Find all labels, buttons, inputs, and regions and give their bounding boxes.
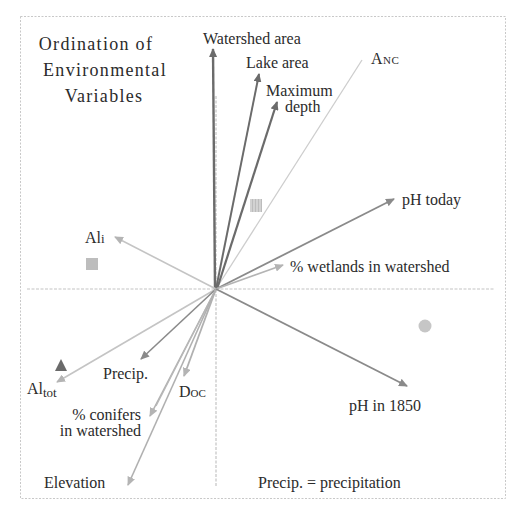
sample-markers [55, 199, 432, 371]
label-ph-1850: pH in 1850 [349, 397, 421, 415]
striped-square-marker [250, 199, 262, 212]
label-altot-sub: tot [43, 385, 57, 400]
vector-precip [141, 289, 216, 359]
title-line-1: Ordination of [39, 34, 153, 54]
label-conifers-2: in watershed [60, 422, 141, 439]
label-anc: Anc [371, 50, 399, 67]
vector-doc [184, 289, 216, 376]
label-ali: Ali [85, 229, 105, 246]
ordination-diagram: Ordination of Environmental Variables W [0, 0, 512, 515]
label-precip: Precip. [103, 365, 148, 383]
label-wetlands: % wetlands in watershed [290, 258, 450, 275]
label-ph-today: pH today [402, 191, 461, 209]
label-maximum-depth-2: depth [285, 98, 321, 116]
svg-text:Variables: Variables [65, 86, 144, 106]
triangle-marker [55, 359, 67, 371]
footnote-precipitation: Precip. = precipitation [258, 474, 401, 492]
label-watershed-area: Watershed area [203, 30, 301, 47]
label-doc: Doc [179, 383, 206, 400]
label-lake-area: Lake area [246, 54, 309, 71]
title-line-2: Environmental [43, 60, 167, 80]
label-ali-sub: i [101, 231, 105, 246]
square-marker [86, 258, 98, 270]
label-elevation: Elevation [44, 474, 105, 491]
vector-wetlands [216, 265, 283, 289]
svg-text:Ordination of: Ordination of [39, 34, 153, 54]
label-conifers-1: % conifers [72, 406, 141, 423]
label-ali-main: Al [85, 229, 102, 246]
circle-marker [419, 320, 432, 333]
vector-ali [115, 237, 216, 289]
svg-text:Environmental: Environmental [43, 60, 167, 80]
vector-ph-1850 [216, 289, 407, 386]
vector-watershed-area [213, 49, 215, 289]
title-line-3: Variables [65, 86, 144, 106]
label-altot-main: Al [27, 380, 44, 397]
chart-title: Ordination of Environmental Variables [39, 34, 167, 106]
label-altot: Altot [27, 380, 57, 400]
label-maximum-depth-1: Maximum [266, 82, 333, 99]
